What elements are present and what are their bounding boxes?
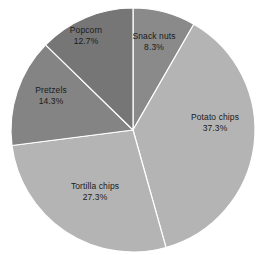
pie-chart: Snack nuts 8.3% Potato chips 37.3% Torti… xyxy=(0,0,265,255)
pie-slice-group xyxy=(11,8,255,252)
pie-chart-canvas xyxy=(0,0,265,255)
